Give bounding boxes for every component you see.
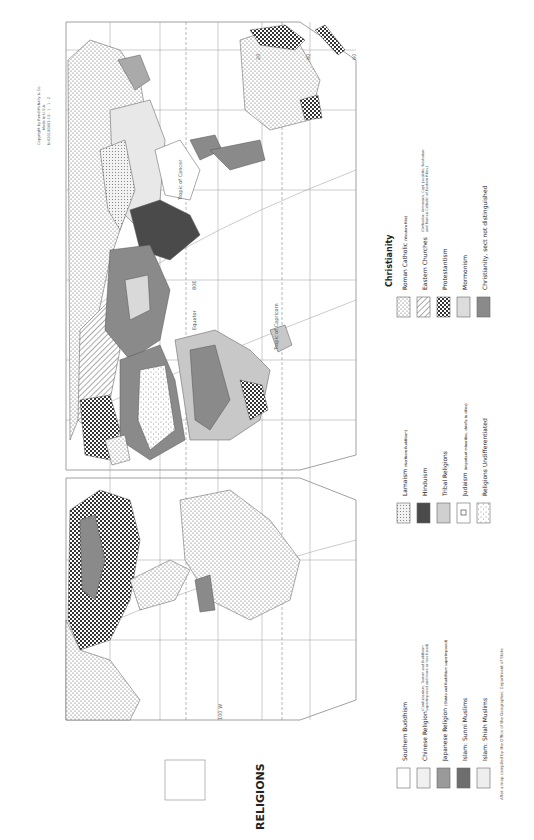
swatch-southern-buddhism	[397, 768, 410, 788]
legend-item-japanese-religion: Japanese Religion(Shinto and Buddhism su…	[437, 639, 450, 788]
legend-item-christianity-undistinguished: Christianity, sect not distinguished	[477, 185, 490, 317]
swatch-eastern-churches	[417, 297, 430, 317]
legend-label: Eastern Churches	[421, 237, 428, 290]
legend-item-eastern-churches: Eastern Churches (Orthodox, Armenian, Co…	[417, 150, 430, 317]
landmasses-americas	[66, 490, 300, 720]
legend-item-religions-undifferentiated: Religions Undifferentiated	[477, 418, 490, 523]
copyright-line3: N-020180003-1S - 1 - 1 - 2	[47, 97, 51, 145]
lat-20-label: 20	[255, 54, 261, 60]
legend-label: Southern Buddhism	[401, 702, 408, 761]
legend-label: Lamaism(Northern Buddhism)	[401, 429, 408, 496]
swatch-lamaism	[397, 503, 410, 523]
legend-label: Hinduism	[421, 468, 428, 496]
legend-label: Tribal Religions	[441, 451, 449, 497]
legend-note: and Roman Catholic of Eastern Rites.)	[425, 165, 429, 232]
swatch-hinduism	[417, 503, 430, 523]
legend-label: Roman Catholic(Western Rite)	[401, 215, 408, 290]
map-title: RELIGIONS	[254, 763, 267, 830]
alaska-inset	[165, 760, 205, 800]
legend-item-islam-shiah: Islam: Shiah Muslims	[477, 698, 490, 788]
swatch-christianity-undistinguished	[477, 297, 490, 317]
swatch-islam-shiah	[477, 768, 490, 788]
legend-note: superimposed and more or less fused)	[425, 643, 429, 711]
legend-label: Mormonism	[461, 255, 468, 290]
legend-item-mormonism: Mormonism	[457, 255, 470, 317]
legend-item-protestantism: Protestantism	[437, 248, 450, 317]
tropic-cancer-label: Tropic of Cancer	[177, 159, 184, 201]
equator-label: Equator	[191, 309, 198, 330]
legend-label: Protestantism	[441, 248, 448, 290]
swatch-protestantism	[437, 297, 450, 317]
swatch-mormonism	[457, 297, 470, 317]
landmasses-eastern	[68, 25, 345, 465]
swatch-japanese-religion	[437, 768, 450, 788]
source-note: After a map compiled by the Office of th…	[499, 648, 504, 800]
map-canvas: Equator 80E Tropic of Capricorn Tropic o…	[0, 0, 534, 840]
swatch-roman-catholic	[397, 297, 410, 317]
legend-item-roman-catholic: Roman Catholic(Western Rite)	[397, 215, 410, 317]
copyright-line2: Made in U.S.A.	[42, 104, 46, 130]
legend-label: Chinese Religion	[421, 711, 429, 761]
swatch-islam-sunni	[457, 768, 470, 788]
legend-item-chinese-religion: Chinese Religion (Confucianism, Taoism a…	[417, 643, 430, 788]
legend-heading-christianity: Christianity	[385, 234, 394, 287]
lat-40-label: 40	[305, 54, 311, 60]
judaism-star-icon	[461, 510, 466, 515]
swatch-tribal-religions	[437, 503, 450, 523]
legend-label: Judaism(important minorities, chiefly in…	[461, 403, 469, 497]
legend-item-islam-sunni: Islam: Sunni Muslims	[457, 698, 470, 788]
swatch-chinese-religion	[417, 768, 430, 788]
legend-label: Islam: Shiah Muslims	[481, 698, 488, 761]
tropic-capricorn-label: Tropic of Capricorn	[273, 303, 280, 351]
legend-label: Islam: Sunni Muslims	[461, 698, 468, 761]
swatch-religions-undifferentiated	[477, 503, 490, 523]
legend: Christianity Roman Catholic(Western Rite…	[385, 150, 504, 800]
world-map	[66, 22, 356, 800]
legend-label: Christianity, sect not distinguished	[481, 185, 489, 290]
legend-item-judaism: Judaism(important minorities, chiefly in…	[457, 403, 470, 523]
copyright-block: Copyright by Rand McNally & Co. Made in …	[37, 85, 51, 145]
legend-label: Japanese Religion(Shinto and Buddhism su…	[441, 639, 449, 762]
religions-map-page: Equator 80E Tropic of Capricorn Tropic o…	[0, 0, 534, 840]
lat-60-label: 60	[351, 54, 357, 60]
copyright-line1: Copyright by Rand McNally & Co.	[37, 85, 41, 145]
lon-80e-label: 80E	[191, 280, 197, 290]
legend-item-lamaism: Lamaism(Northern Buddhism)	[397, 429, 410, 523]
lon-100w-label: 100 W	[217, 704, 223, 720]
legend-item-hinduism: Hinduism	[417, 468, 430, 523]
legend-item-southern-buddhism: Southern Buddhism	[397, 702, 410, 788]
legend-label: Religions Undifferentiated	[481, 418, 489, 496]
legend-item-tribal-religions: Tribal Religions	[437, 451, 450, 523]
